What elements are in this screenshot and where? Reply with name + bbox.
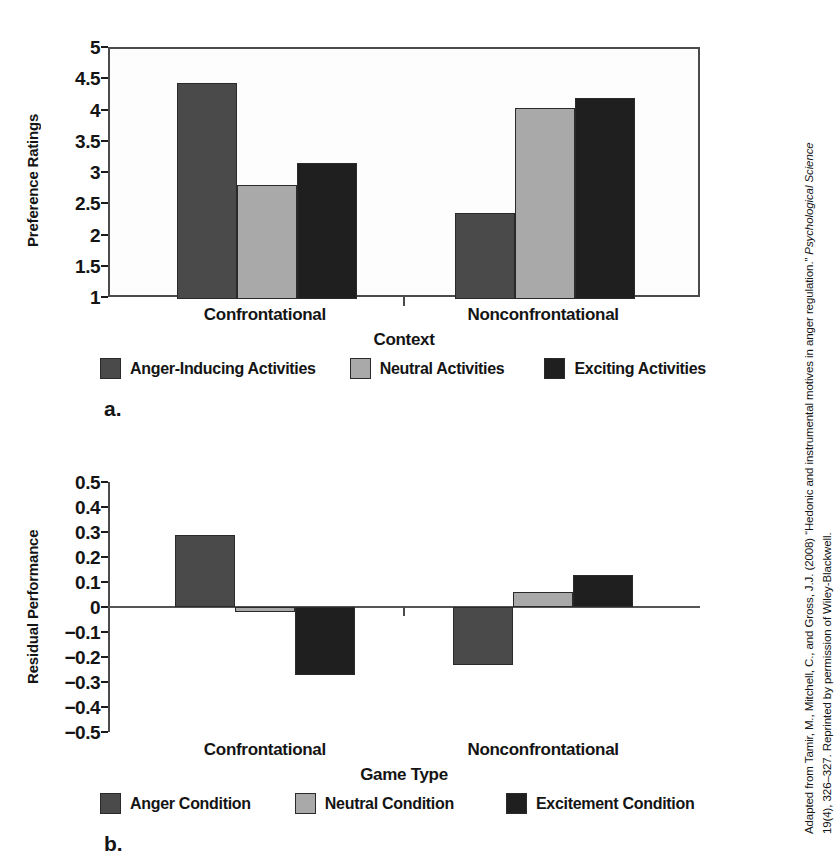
legend-swatch-icon xyxy=(100,793,121,814)
y-tick-mark xyxy=(101,731,108,733)
y-tick-label: 0 xyxy=(90,598,100,617)
legend-item[interactable]: Exciting Activities xyxy=(544,358,706,379)
panel-a-y-axis-label: Preference Ratings xyxy=(24,95,41,265)
y-tick-mark xyxy=(101,681,108,683)
y-tick-label: 1 xyxy=(90,288,100,307)
y-tick-label: 3 xyxy=(90,163,100,182)
legend-label: Anger Condition xyxy=(130,795,251,813)
y-tick-label: 4.5 xyxy=(75,69,100,88)
legend-label: Exciting Activities xyxy=(574,360,706,378)
bar xyxy=(455,213,515,299)
category-label: Nonconfrontational xyxy=(467,740,618,760)
y-tick-mark xyxy=(101,506,108,508)
y-tick-mark xyxy=(101,234,108,236)
y-tick-mark xyxy=(101,202,108,204)
bar xyxy=(177,83,237,299)
y-tick-mark xyxy=(101,77,108,79)
y-tick-mark xyxy=(101,581,108,583)
panel-b-x-axis-label: Game Type xyxy=(108,765,700,785)
figure-container: Preference Ratings 11.522.533.544.55 Con… xyxy=(0,0,700,850)
y-tick-label: 0.5 xyxy=(75,473,100,492)
bar xyxy=(453,607,513,665)
y-tick-label: 0.3 xyxy=(75,523,100,542)
y-tick-mark xyxy=(101,296,108,298)
axis-separator-tick xyxy=(403,297,405,306)
panel-a-letter: a. xyxy=(104,397,122,421)
legend-label: Anger-Inducing Activities xyxy=(130,360,316,378)
credit-line-1: Adapted from Tamir, M., Mitchell, C., an… xyxy=(803,255,815,834)
panel-a-legend: Anger-Inducing ActivitiesNeutral Activit… xyxy=(100,358,700,379)
y-tick-label: −0.1 xyxy=(64,623,100,642)
bar xyxy=(513,592,573,607)
panel-a: Preference Ratings 11.522.533.544.55 Con… xyxy=(0,0,700,425)
y-tick-mark xyxy=(101,656,108,658)
y-tick-label: 3.5 xyxy=(75,131,100,150)
y-tick-label: −0.3 xyxy=(64,673,100,692)
bar xyxy=(175,535,235,608)
bar xyxy=(237,185,297,299)
bar xyxy=(235,607,295,612)
legend-item[interactable]: Neutral Activities xyxy=(350,358,505,379)
y-tick-mark xyxy=(101,556,108,558)
source-attribution: Adapted from Tamir, M., Mitchell, C., an… xyxy=(771,14,807,834)
axis-separator-tick xyxy=(403,607,405,616)
y-tick-mark xyxy=(101,531,108,533)
y-tick-mark xyxy=(101,265,108,267)
y-tick-mark xyxy=(101,109,108,111)
bar xyxy=(573,575,633,608)
category-label: Confrontational xyxy=(204,740,326,760)
panel-a-plot-area xyxy=(108,47,700,297)
y-tick-mark xyxy=(101,631,108,633)
panel-b-y-axis-label: Residual Performance xyxy=(24,509,41,705)
legend-item[interactable]: Anger Condition xyxy=(100,793,251,814)
panel-b-legend: Anger ConditionNeutral ConditionExciteme… xyxy=(100,793,700,814)
y-tick-mark xyxy=(101,171,108,173)
y-tick-label: −0.5 xyxy=(64,723,100,742)
y-tick-mark xyxy=(101,46,108,48)
y-tick-mark xyxy=(101,140,108,142)
legend-item[interactable]: Neutral Condition xyxy=(295,793,454,814)
legend-label: Neutral Activities xyxy=(380,360,505,378)
y-tick-label: −0.2 xyxy=(64,648,100,667)
y-tick-mark xyxy=(101,706,108,708)
legend-label: Neutral Condition xyxy=(325,795,454,813)
bar xyxy=(295,607,355,675)
y-tick-label: 0.1 xyxy=(75,573,100,592)
panel-b-letter: b. xyxy=(104,832,123,855)
bar xyxy=(297,163,357,299)
y-tick-label: 4 xyxy=(90,100,100,119)
panel-b: Residual Performance 0.50.40.30.20.10−0.… xyxy=(0,425,700,850)
y-tick-mark xyxy=(101,481,108,483)
credit-line-2: 19(4), 326–327. Reprinted by permission … xyxy=(819,14,837,834)
y-tick-label: 0.2 xyxy=(75,548,100,567)
legend-swatch-icon xyxy=(295,793,316,814)
y-tick-label: −0.4 xyxy=(64,698,100,717)
y-tick-label: 1.5 xyxy=(75,256,100,275)
y-tick-mark xyxy=(101,606,108,608)
bar xyxy=(575,98,635,299)
bar xyxy=(515,108,575,299)
category-label: Confrontational xyxy=(204,305,326,325)
y-tick-label: 0.4 xyxy=(75,498,100,517)
legend-swatch-icon xyxy=(100,358,121,379)
legend-item[interactable]: Anger-Inducing Activities xyxy=(100,358,316,379)
y-tick-label: 2.5 xyxy=(75,194,100,213)
y-tick-label: 2 xyxy=(90,225,100,244)
panel-a-x-axis-label: Context xyxy=(108,330,700,350)
legend-swatch-icon xyxy=(350,358,371,379)
legend-swatch-icon xyxy=(544,358,565,379)
legend-item[interactable]: Excitement Condition xyxy=(506,793,694,814)
legend-swatch-icon xyxy=(506,793,527,814)
legend-label: Excitement Condition xyxy=(536,795,694,813)
category-label: Nonconfrontational xyxy=(467,305,618,325)
y-tick-label: 5 xyxy=(90,38,100,57)
credit-journal-name: Psychological Science xyxy=(803,142,815,254)
